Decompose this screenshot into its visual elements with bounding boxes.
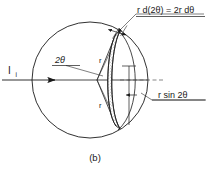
figure-caption: (b) [89, 152, 101, 163]
radius-label-upper: r [99, 56, 102, 65]
radius-label-lower: r [99, 101, 102, 110]
arc-width-label: r d(2θ) = 2r dθ [137, 5, 194, 15]
incident-beam-subscript: i [16, 71, 17, 78]
incident-beam-label: I [8, 65, 11, 76]
angle-label: 2θ [54, 55, 65, 65]
figure-container: I i 2θ r r r d(2θ) = 2r dθ r sin 2θ (b) [0, 0, 211, 169]
diagram-canvas: I i 2θ r r r d(2θ) = 2r dθ r sin 2θ (b) [0, 0, 211, 169]
angle-leader-line [66, 66, 103, 77]
vertical-extent-label: r sin 2θ [158, 90, 188, 100]
